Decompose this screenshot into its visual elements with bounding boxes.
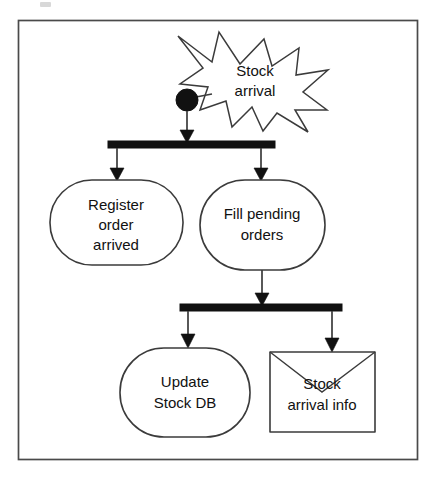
- activity-update-label-line2: Stock DB: [154, 394, 217, 411]
- edge-fill-to-join: [255, 270, 269, 306]
- activity-fill-label-line2: orders: [241, 226, 284, 243]
- edge-join-to-update: [181, 311, 195, 348]
- signal-event-label-line2: arrival: [235, 82, 276, 99]
- edge-fork-to-register: [110, 148, 124, 181]
- activity-register-label-line3: arrived: [93, 236, 139, 253]
- activity-update-label-line1: Update: [161, 373, 209, 390]
- edge-join-to-object: [325, 311, 339, 352]
- object-node-stock-arrival-info: Stock arrival info: [270, 352, 375, 432]
- diagram-canvas: Stock arrival Register order a: [0, 0, 434, 479]
- scan-artifact: [40, 2, 51, 7]
- edge-fork-to-fill: [254, 148, 268, 181]
- fork-bar-top: [108, 141, 275, 148]
- activity-register-label-line2: order: [98, 216, 133, 233]
- activity-diagram: Stock arrival Register order a: [0, 0, 434, 479]
- object-node-label-line1: Stock: [303, 375, 341, 392]
- object-node-label-line2: arrival info: [287, 396, 356, 413]
- fork-bar-bottom: [180, 304, 342, 311]
- activity-update-shape: [120, 348, 250, 437]
- initial-node: [176, 89, 198, 111]
- signal-event-node: Stock arrival: [178, 32, 328, 132]
- activity-update-stock-db: Update Stock DB: [120, 348, 250, 437]
- edge-initial-to-fork: [180, 111, 194, 143]
- activity-register-order-arrived: Register order arrived: [50, 180, 183, 265]
- activity-fill-label-line1: Fill pending: [224, 205, 301, 222]
- signal-event-label-line1: Stock: [236, 62, 274, 79]
- activity-register-label-line1: Register: [88, 196, 144, 213]
- activity-fill-pending-orders: Fill pending orders: [200, 180, 325, 270]
